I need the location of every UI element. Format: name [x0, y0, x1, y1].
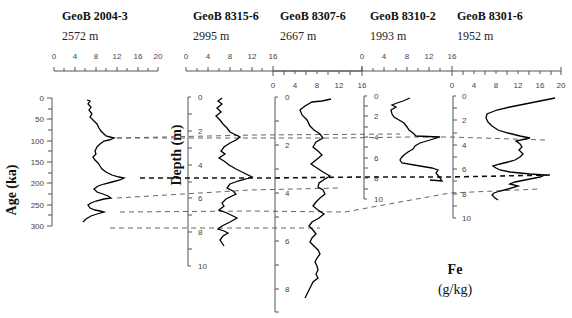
svg-text:4: 4	[285, 189, 290, 198]
svg-text:0: 0	[450, 81, 455, 90]
svg-text:12: 12	[425, 52, 434, 61]
svg-text:8: 8	[315, 81, 320, 90]
svg-text:6: 6	[374, 154, 379, 163]
svg-text:4: 4	[206, 52, 211, 61]
depth-axis-8315-6: 0 2 4 6 8 10	[188, 93, 207, 271]
svg-text:0: 0	[462, 92, 467, 101]
svg-text:16: 16	[269, 52, 278, 61]
trace-2004-3	[83, 100, 124, 222]
svg-text:2: 2	[198, 127, 203, 136]
trace-8301-6	[486, 98, 555, 200]
core-title-8307-6: GeoB 8307-6	[280, 9, 346, 23]
svg-text:6: 6	[198, 194, 203, 203]
depth-axis-8310-2: 0 2 4 6 8 10	[364, 92, 383, 204]
trace-8310-2	[391, 98, 442, 181]
svg-text:250: 250	[31, 201, 45, 210]
core-title-2004-3: GeoB 2004-3	[62, 9, 128, 23]
svg-text:4: 4	[293, 81, 298, 90]
core-title-8310-2: GeoB 8310-2	[370, 9, 436, 23]
trace-8315-6	[216, 98, 252, 246]
svg-text:10: 10	[198, 262, 207, 271]
core-depth-8315-6: 2995 m	[193, 29, 230, 43]
trace-8307-6	[300, 99, 331, 298]
svg-text:2: 2	[462, 116, 467, 125]
svg-text:0: 0	[184, 52, 189, 61]
svg-text:0: 0	[374, 92, 379, 101]
svg-text:16: 16	[448, 52, 457, 61]
svg-text:4: 4	[73, 52, 78, 61]
core-depth-8307-6: 2667 m	[280, 29, 317, 43]
svg-text:150: 150	[31, 158, 45, 167]
core-title-8315-6: GeoB 8315-6	[193, 9, 259, 23]
svg-text:8: 8	[405, 52, 410, 61]
x-axis-row1: 0 4 8 12 16 0 4 8 12 16	[184, 52, 457, 76]
depth-axis-label: Depth (m)	[169, 124, 185, 185]
svg-text:8: 8	[285, 285, 290, 294]
svg-text:12: 12	[113, 52, 122, 61]
svg-text:8: 8	[494, 81, 499, 90]
svg-text:50: 50	[35, 115, 44, 124]
svg-text:12: 12	[248, 52, 257, 61]
svg-text:300: 300	[31, 222, 45, 231]
core-depth-2004-3: 2572 m	[62, 29, 99, 43]
svg-text:8: 8	[94, 52, 99, 61]
svg-text:100: 100	[31, 137, 45, 146]
svg-text:12: 12	[335, 81, 344, 90]
svg-text:4: 4	[472, 81, 477, 90]
svg-text:0: 0	[285, 93, 290, 102]
svg-text:16: 16	[134, 52, 143, 61]
svg-text:20: 20	[557, 81, 566, 90]
svg-text:200: 200	[31, 179, 45, 188]
core-depth-8310-2: 1993 m	[370, 29, 407, 43]
depth-axis-8301-6: 0 2 4 6 8 10	[453, 92, 471, 223]
svg-text:10: 10	[462, 214, 471, 223]
svg-text:16: 16	[358, 81, 367, 90]
fe-core-chart: GeoB 2004-3 2572 m GeoB 8315-6 2995 m Ge…	[0, 0, 572, 318]
svg-text:4: 4	[462, 141, 467, 150]
core-depth-8301-6: 1952 m	[457, 29, 494, 43]
svg-text:8: 8	[374, 174, 379, 183]
svg-text:0: 0	[360, 52, 365, 61]
core-title-8301-6: GeoB 8301-6	[457, 9, 523, 23]
svg-text:20: 20	[154, 52, 163, 61]
svg-text:16: 16	[536, 81, 545, 90]
svg-text:10: 10	[374, 195, 383, 204]
depth-axis-8307-6: 0 2 4 6 8	[275, 93, 290, 312]
svg-text:0: 0	[271, 81, 276, 90]
svg-text:8: 8	[462, 190, 467, 199]
svg-text:2: 2	[285, 141, 290, 150]
svg-text:2: 2	[374, 112, 379, 121]
svg-text:8: 8	[198, 228, 203, 237]
svg-text:4: 4	[382, 52, 387, 61]
fe-label: Fe	[448, 262, 463, 277]
svg-text:0: 0	[198, 93, 203, 102]
svg-text:6: 6	[285, 237, 290, 246]
svg-text:4: 4	[198, 161, 203, 170]
svg-text:12: 12	[514, 81, 523, 90]
fe-unit-label: (g/kg)	[438, 282, 473, 298]
svg-text:0: 0	[40, 94, 45, 103]
age-axis-label: Age (ka)	[4, 164, 20, 215]
svg-text:6: 6	[462, 165, 467, 174]
age-y-axis: 0 50 100 150 200 250 300	[31, 94, 52, 231]
chart-root: GeoB 2004-3 2572 m GeoB 8315-6 2995 m Ge…	[0, 0, 572, 318]
x-axis-2004-3: 0 4 8 12 16 20	[52, 52, 163, 71]
svg-text:8: 8	[228, 52, 233, 61]
svg-text:0: 0	[52, 52, 57, 61]
